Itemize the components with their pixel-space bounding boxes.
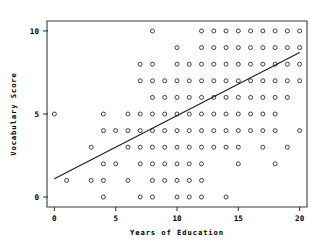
data-point [224, 95, 228, 99]
data-point [200, 95, 204, 99]
data-point [212, 62, 216, 66]
data-point [200, 46, 204, 50]
x-tick-label: 20 [295, 214, 305, 223]
data-point [187, 162, 191, 166]
data-point [200, 79, 204, 83]
data-point [163, 145, 167, 149]
data-point [236, 129, 240, 133]
data-point [273, 95, 277, 99]
y-tick-label: 0 [34, 193, 39, 202]
data-point [261, 95, 265, 99]
data-point [175, 145, 179, 149]
data-point [273, 29, 277, 33]
x-tick-label: 10 [172, 214, 182, 223]
data-points [52, 29, 301, 199]
data-point [249, 62, 253, 66]
data-point [163, 162, 167, 166]
data-point [187, 178, 191, 182]
data-point [126, 178, 130, 182]
data-point [89, 145, 93, 149]
x-tick-label: 0 [52, 214, 57, 223]
data-point [101, 195, 105, 199]
y-tick-label: 5 [34, 110, 39, 119]
x-tick-label: 15 [234, 214, 244, 223]
data-point [101, 112, 105, 116]
data-point [224, 112, 228, 116]
data-point [138, 79, 142, 83]
data-point [261, 145, 265, 149]
data-point [65, 178, 69, 182]
data-point [150, 62, 154, 66]
data-point [285, 62, 289, 66]
data-point [187, 79, 191, 83]
plot-frame [47, 21, 307, 207]
data-point [187, 145, 191, 149]
data-point [298, 29, 302, 33]
data-point [273, 46, 277, 50]
data-point [150, 95, 154, 99]
data-point [249, 112, 253, 116]
data-point [175, 162, 179, 166]
data-point [200, 178, 204, 182]
data-point [224, 46, 228, 50]
data-point [273, 79, 277, 83]
data-point [200, 62, 204, 66]
data-point [298, 79, 302, 83]
plot-canvas: 05101520 0510 Years of Education Vocabul… [0, 0, 329, 242]
data-point [101, 129, 105, 133]
data-point [285, 145, 289, 149]
data-point [163, 178, 167, 182]
data-point [138, 112, 142, 116]
data-point [212, 129, 216, 133]
data-point [200, 162, 204, 166]
data-point [150, 162, 154, 166]
data-point [138, 145, 142, 149]
data-point [273, 112, 277, 116]
data-point [175, 62, 179, 66]
data-point [273, 162, 277, 166]
y-tick-labels: 0510 [30, 27, 40, 202]
data-point [224, 195, 228, 199]
data-point [212, 79, 216, 83]
data-point [175, 95, 179, 99]
data-point [126, 112, 130, 116]
data-point [236, 46, 240, 50]
data-point [126, 145, 130, 149]
data-point [175, 79, 179, 83]
data-point [200, 129, 204, 133]
y-axis-label: Vocabulary Score [9, 72, 18, 156]
data-point [163, 129, 167, 133]
data-point [224, 79, 228, 83]
data-point [236, 95, 240, 99]
x-axis-ticks [54, 207, 299, 211]
data-point [150, 195, 154, 199]
data-point [200, 112, 204, 116]
x-axis-label: Years of Education [130, 228, 224, 237]
data-point [249, 29, 253, 33]
data-point [138, 62, 142, 66]
data-point [150, 79, 154, 83]
y-tick-label: 10 [30, 27, 40, 36]
data-point [285, 46, 289, 50]
data-point [224, 129, 228, 133]
data-point [89, 178, 93, 182]
data-point [212, 145, 216, 149]
data-point [298, 46, 302, 50]
data-point [150, 29, 154, 33]
data-point [187, 62, 191, 66]
data-point [285, 79, 289, 83]
x-tick-label: 5 [113, 214, 118, 223]
data-point [175, 195, 179, 199]
data-point [261, 29, 265, 33]
data-point [187, 95, 191, 99]
data-point [261, 62, 265, 66]
data-point [114, 129, 118, 133]
data-point [150, 112, 154, 116]
data-point [187, 112, 191, 116]
data-point [200, 195, 204, 199]
data-point [236, 162, 240, 166]
data-point [236, 112, 240, 116]
data-point [150, 178, 154, 182]
data-point [150, 145, 154, 149]
data-point [138, 195, 142, 199]
